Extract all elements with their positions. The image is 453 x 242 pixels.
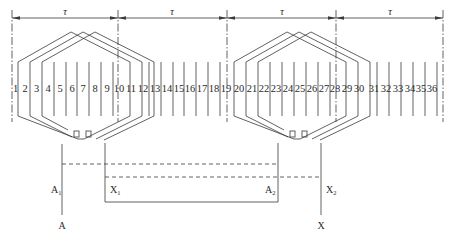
label-X1: X1 — [110, 184, 120, 196]
winding-diagram: τ τ τ τ — [0, 0, 453, 242]
svg-text:2: 2 — [22, 83, 27, 94]
tau-label-1: τ — [63, 6, 67, 17]
svg-text:7: 7 — [80, 83, 85, 94]
svg-text:28: 28 — [330, 83, 341, 94]
svg-text:35: 35 — [416, 83, 427, 94]
tau-label-2: τ — [170, 6, 174, 17]
svg-text:16: 16 — [185, 83, 196, 94]
svg-text:29: 29 — [342, 83, 353, 94]
label-A1: A1 — [51, 184, 61, 196]
tau-label-4: τ — [388, 6, 392, 17]
svg-text:9: 9 — [104, 83, 109, 94]
svg-text:1: 1 — [13, 83, 18, 94]
svg-text:19: 19 — [221, 83, 232, 94]
svg-text:30: 30 — [354, 83, 365, 94]
tau-label-3: τ — [280, 6, 284, 17]
svg-text:5: 5 — [57, 83, 62, 94]
svg-text:33: 33 — [393, 83, 404, 94]
svg-text:21: 21 — [247, 83, 258, 94]
svg-text:6: 6 — [69, 83, 74, 94]
svg-text:17: 17 — [197, 83, 208, 94]
svg-text:12: 12 — [138, 83, 149, 94]
slot-numbers: 1 2 3 4 5 6 7 8 9 10 11 12 13 14 15 16 1… — [13, 83, 437, 94]
svg-text:8: 8 — [92, 83, 97, 94]
svg-text:14: 14 — [162, 83, 173, 94]
connections — [62, 143, 321, 215]
svg-text:26: 26 — [307, 83, 318, 94]
svg-text:13: 13 — [150, 83, 161, 94]
label-X: X — [317, 220, 325, 231]
svg-text:15: 15 — [174, 83, 185, 94]
svg-text:36: 36 — [427, 83, 438, 94]
svg-text:10: 10 — [114, 83, 125, 94]
svg-text:34: 34 — [405, 83, 416, 94]
svg-text:24: 24 — [283, 83, 294, 94]
svg-text:27: 27 — [319, 83, 330, 94]
svg-text:32: 32 — [381, 83, 392, 94]
svg-text:11: 11 — [126, 83, 136, 94]
svg-text:25: 25 — [295, 83, 306, 94]
svg-text:18: 18 — [209, 83, 220, 94]
label-A2: A2 — [265, 184, 275, 196]
svg-text:4: 4 — [45, 83, 51, 94]
slot-lines — [54, 62, 437, 116]
pole-pitch-dimension: τ τ τ τ — [12, 6, 443, 20]
label-X2: X2 — [326, 184, 336, 196]
svg-text:31: 31 — [369, 83, 380, 94]
svg-text:20: 20 — [234, 83, 245, 94]
terminal-labels: A1 X1 A2 X2 A X — [51, 184, 336, 231]
svg-text:22: 22 — [259, 83, 270, 94]
svg-text:23: 23 — [271, 83, 282, 94]
label-A: A — [58, 220, 66, 231]
svg-text:3: 3 — [34, 83, 39, 94]
